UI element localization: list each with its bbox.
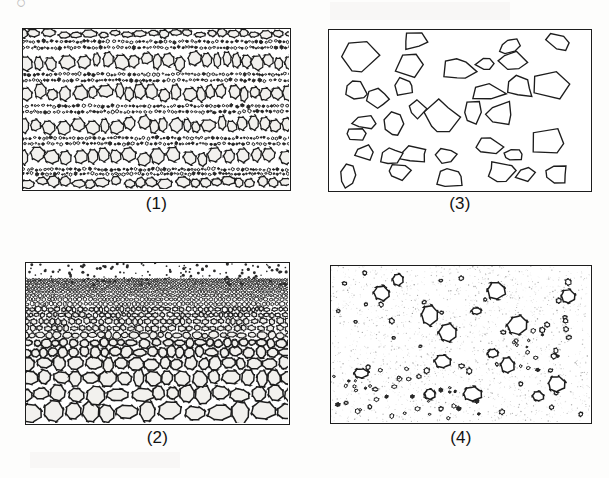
panel-4-texture bbox=[331, 266, 590, 422]
panel-3-texture bbox=[329, 30, 590, 190]
panel-4-label: (4) bbox=[330, 428, 592, 448]
corner-artifact-glyph: ○ bbox=[16, 0, 26, 11]
figure-root: ○ (1) (2) (3) (4) bbox=[0, 0, 609, 478]
panel-2-texture bbox=[26, 263, 288, 423]
scan-smudge-top bbox=[330, 2, 510, 20]
scan-smudge-bottom bbox=[30, 452, 180, 468]
panel-1-texture bbox=[23, 29, 289, 189]
panel-4-frame bbox=[330, 265, 592, 424]
panel-1-label: (1) bbox=[22, 194, 291, 214]
panel-2-label: (2) bbox=[25, 428, 290, 448]
panel-1-frame bbox=[22, 28, 291, 191]
panel-3-label: (3) bbox=[328, 194, 592, 214]
panel-3-frame bbox=[328, 29, 592, 192]
panel-2-frame bbox=[25, 262, 290, 425]
